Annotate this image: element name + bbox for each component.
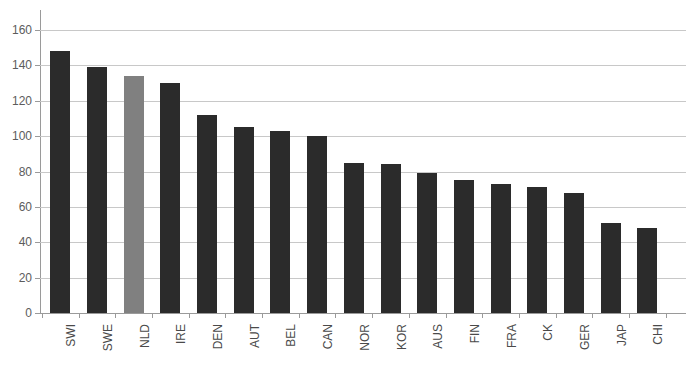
x-axis-label-chi: CHI [652, 324, 664, 345]
x-tick-mark [42, 313, 43, 318]
x-tick-mark [335, 313, 336, 318]
x-axis-line [40, 313, 686, 314]
x-tick-mark [189, 313, 190, 318]
x-axis-label-kor: KOR [396, 324, 408, 350]
x-axis-label-aus: AUS [432, 324, 444, 349]
x-tick-mark [372, 313, 373, 318]
y-tick-label: 140 [12, 59, 32, 71]
x-axis-label-nor: NOR [359, 324, 371, 351]
bar-aus [417, 173, 437, 313]
y-tick-label: 100 [12, 130, 32, 142]
x-tick-mark [556, 313, 557, 318]
x-tick-mark [225, 313, 226, 318]
y-tick-mark [35, 313, 40, 314]
y-tick-label: 120 [12, 95, 32, 107]
bar-fin [454, 180, 474, 313]
bar-aut [234, 127, 254, 313]
y-tick-label: 20 [19, 272, 32, 284]
x-tick-mark [299, 313, 300, 318]
x-tick-mark [482, 313, 483, 318]
y-tick-label: 80 [19, 166, 32, 178]
bar-swe [87, 67, 107, 313]
bar-jap [601, 223, 621, 313]
x-tick-mark [629, 313, 630, 318]
y-tick-label: 40 [19, 236, 32, 248]
x-tick-mark [115, 313, 116, 318]
x-tick-mark [152, 313, 153, 318]
bar-ire [160, 83, 180, 313]
x-axis-label-bel: BEL [285, 324, 297, 347]
plot-area [40, 30, 686, 313]
bar-swi [50, 51, 70, 313]
x-axis-label-swi: SWI [65, 324, 77, 347]
x-axis-label-ire: IRE [175, 324, 187, 344]
x-tick-mark [79, 313, 80, 318]
x-tick-mark [519, 313, 520, 318]
x-axis-label-ger: GER [579, 324, 591, 350]
x-tick-mark [446, 313, 447, 318]
x-axis-label-aut: AUT [249, 324, 261, 348]
x-axis-label-swe: SWE [102, 324, 114, 351]
bar-chart: 020406080100120140160 SWISWENLDIREDENAUT… [0, 0, 694, 373]
x-axis-label-jap: JAP [616, 324, 628, 346]
bar-nld [124, 76, 144, 313]
bar-can [307, 136, 327, 313]
bar-nor [344, 163, 364, 313]
x-axis-label-fra: FRA [506, 324, 518, 348]
bar-kor [381, 164, 401, 313]
x-tick-mark [666, 313, 667, 318]
bar-ger [564, 193, 584, 313]
bar-bel [270, 131, 290, 313]
y-tick-label: 160 [12, 24, 32, 36]
x-tick-mark [262, 313, 263, 318]
bar-chi [637, 228, 657, 313]
bar-fra [491, 184, 511, 313]
x-axis-label-nld: NLD [139, 324, 151, 348]
x-tick-mark [409, 313, 410, 318]
x-axis-label-den: DEN [212, 324, 224, 349]
x-axis-label-can: CAN [322, 324, 334, 349]
bar-ck [527, 187, 547, 313]
x-axis-label-fin: FIN [469, 324, 481, 343]
x-tick-mark [592, 313, 593, 318]
y-tick-label: 60 [19, 201, 32, 213]
x-axis-label-ck: CK [542, 324, 554, 341]
y-tick-label: 0 [25, 307, 32, 319]
bar-den [197, 115, 217, 313]
